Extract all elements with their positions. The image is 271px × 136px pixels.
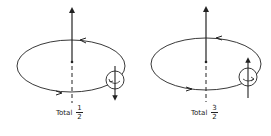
panel-total-half: Total 1 2 xyxy=(0,0,135,136)
panel-total-three-halves: Total 3 2 xyxy=(135,0,270,136)
fraction: 1 2 xyxy=(76,104,82,121)
nucleus-dot xyxy=(205,61,208,64)
total-label-left: Total 1 2 xyxy=(56,104,83,121)
fraction: 3 2 xyxy=(211,104,217,121)
total-label-right: Total 3 2 xyxy=(191,104,218,121)
total-text: Total xyxy=(56,109,72,117)
nucleus-dot xyxy=(71,61,74,64)
total-text: Total xyxy=(191,109,207,117)
orbit-arrow-icon xyxy=(216,36,222,40)
